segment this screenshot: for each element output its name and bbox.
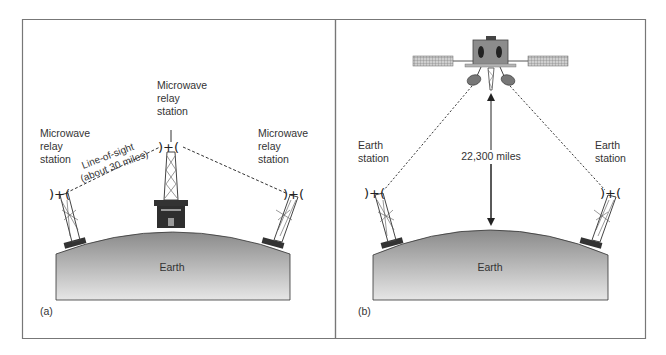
- diagram-content: Earth )+( )+( )+( Microwave relay statio…: [0, 0, 666, 355]
- center-station-label: Microwave relay station: [157, 79, 210, 117]
- building-roof: [154, 200, 188, 206]
- relay-tower-left-a: )+(: [49, 187, 86, 249]
- antenna-icon: )+(: [283, 187, 304, 202]
- right-station-label: Microwave relay station: [258, 127, 311, 165]
- relay-tower-right-a: )+(: [262, 187, 304, 249]
- earth-a-label: Earth: [159, 261, 184, 273]
- line-of-sight-label: Line-of-sight (about 30 miles): [74, 137, 149, 184]
- distance-label: 22,300 miles: [461, 150, 521, 162]
- antenna-icon: )+(: [600, 186, 621, 201]
- relay-tower-center-a: )+(: [154, 130, 188, 228]
- earth-station-left-label: Earth station: [358, 139, 389, 164]
- dish-left: [466, 73, 483, 87]
- dish-right: [500, 73, 517, 87]
- uplink-right: [510, 86, 605, 190]
- earth-station-right-b: )+(: [580, 186, 621, 249]
- satellite: [413, 36, 568, 90]
- antenna-icon: )+(: [158, 140, 179, 155]
- panel-b-tag: (b): [358, 305, 371, 317]
- antenna-icon: )+(: [364, 186, 385, 201]
- solar-panel-right: [528, 56, 568, 66]
- solar-panel-left: [413, 56, 453, 66]
- earth-station-right-label: Earth station: [595, 139, 626, 164]
- panel-a-tag: (a): [40, 305, 53, 317]
- uplink-left: [384, 86, 472, 190]
- earth-station-left-b: )+(: [364, 186, 403, 249]
- earth-b-label: Earth: [477, 261, 502, 273]
- antenna-icon: )+(: [49, 187, 70, 202]
